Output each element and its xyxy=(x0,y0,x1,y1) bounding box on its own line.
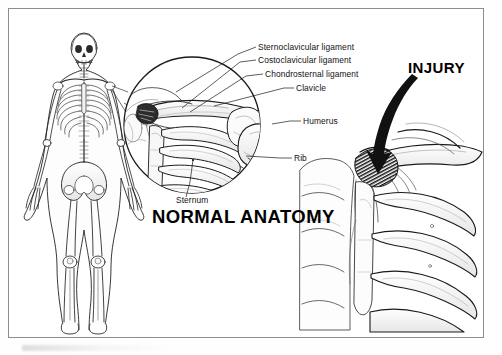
label-sternoclavicular-ligament: Sternoclavicular ligament xyxy=(258,43,354,51)
label-clavicle: Clavicle xyxy=(296,84,326,92)
figure-border xyxy=(8,8,484,338)
label-sternum: Sternum xyxy=(176,196,208,204)
label-costoclavicular-ligament: Costoclavicular ligament xyxy=(258,56,351,64)
label-chondrosternal-ligament: Chondrosternal ligament xyxy=(265,70,359,78)
label-rib: Rib xyxy=(294,154,307,162)
label-humerus: Humerus xyxy=(303,117,338,125)
heading-injury: INJURY xyxy=(408,60,465,75)
medical-illustration-figure: Sternoclavicular ligament Costoclavicula… xyxy=(0,0,502,355)
heading-normal-anatomy: NORMAL ANATOMY xyxy=(152,208,335,227)
bottom-edge-artifact xyxy=(22,345,172,351)
